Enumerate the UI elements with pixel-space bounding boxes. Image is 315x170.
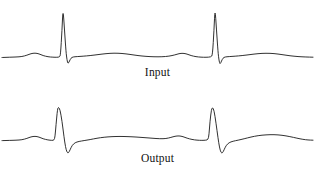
ecg-panel-input: Input	[0, 0, 315, 85]
ecg-figure: Input Output	[0, 0, 315, 170]
ecg-waveform-input-path	[2, 13, 313, 63]
ecg-label-input: Input	[0, 66, 315, 79]
ecg-label-output: Output	[0, 152, 315, 165]
ecg-waveform-output-path	[2, 108, 313, 153]
ecg-panel-output: Output	[0, 85, 315, 170]
